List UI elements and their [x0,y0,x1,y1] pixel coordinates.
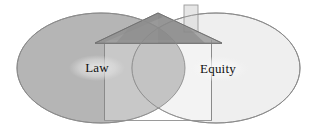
venn-diagram-figure: Law Equity [0,0,317,131]
venn-diagram-canvas [0,0,317,131]
label-law-halo [69,55,125,81]
label-equity-halo [187,56,249,82]
